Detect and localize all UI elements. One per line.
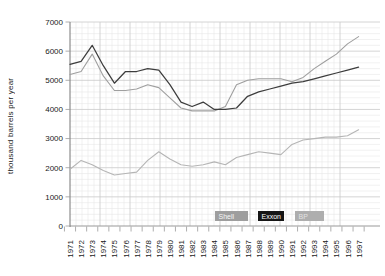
svg-text:Exxon: Exxon	[262, 213, 282, 220]
svg-text:1993: 1993	[310, 239, 319, 257]
svg-text:1980: 1980	[166, 239, 175, 257]
legend-chip-shell: Shell	[215, 211, 248, 221]
svg-text:1984: 1984	[210, 239, 219, 257]
minor-grid	[70, 22, 380, 226]
svg-text:3000: 3000	[45, 134, 63, 143]
svg-text:2000: 2000	[45, 164, 63, 173]
svg-text:1973: 1973	[88, 239, 97, 257]
svg-text:1986: 1986	[233, 239, 242, 257]
x-axis-labels: 1971197219731974197519761977197819791980…	[66, 239, 364, 257]
svg-text:1990: 1990	[277, 239, 286, 257]
svg-text:7000: 7000	[45, 18, 63, 27]
svg-text:1991: 1991	[288, 239, 297, 257]
svg-text:1997: 1997	[355, 239, 364, 257]
svg-text:1971: 1971	[66, 239, 75, 257]
production-line-chart: 0100020003000400050006000700019711972197…	[0, 0, 385, 276]
svg-text:1989: 1989	[266, 239, 275, 257]
svg-text:1996: 1996	[344, 239, 353, 257]
svg-text:1983: 1983	[199, 239, 208, 257]
major-grid	[70, 22, 380, 226]
svg-text:1994: 1994	[321, 239, 330, 257]
svg-text:1979: 1979	[155, 239, 164, 257]
svg-text:1974: 1974	[99, 239, 108, 257]
svg-text:1982: 1982	[188, 239, 197, 257]
legend-chip-exxon: Exxon	[258, 211, 284, 221]
axes	[70, 22, 380, 227]
svg-text:6000: 6000	[45, 47, 63, 56]
svg-text:Shell: Shell	[219, 213, 235, 220]
svg-text:BP: BP	[299, 213, 309, 220]
y-axis-labels: 01000200030004000500060007000	[45, 18, 63, 231]
svg-text:1987: 1987	[244, 239, 253, 257]
legend: ShellExxonBP	[215, 211, 324, 221]
svg-text:5000: 5000	[45, 76, 63, 85]
legend-chip-bp: BP	[295, 211, 324, 221]
svg-text:1977: 1977	[133, 239, 142, 257]
y-axis-title: thousand barrels per year	[6, 58, 18, 194]
svg-text:1992: 1992	[299, 239, 308, 257]
svg-text:1978: 1978	[144, 239, 153, 257]
svg-text:0: 0	[59, 222, 64, 231]
svg-text:1976: 1976	[122, 239, 131, 257]
svg-text:4000: 4000	[45, 105, 63, 114]
svg-text:1981: 1981	[177, 239, 186, 257]
chart-canvas: 0100020003000400050006000700019711972197…	[0, 0, 385, 276]
svg-text:1975: 1975	[110, 239, 119, 257]
svg-text:1972: 1972	[77, 239, 86, 257]
svg-text:1985: 1985	[221, 239, 230, 257]
svg-text:1995: 1995	[332, 239, 341, 257]
svg-text:1000: 1000	[45, 193, 63, 202]
svg-text:1988: 1988	[255, 239, 264, 257]
